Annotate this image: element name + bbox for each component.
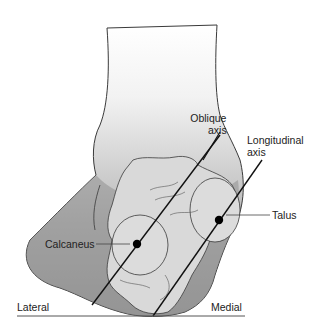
hindfoot-illustration [0,0,318,333]
oblique-axis-label-line2: axis [190,124,227,136]
talus-dot [215,216,223,224]
talus-label: Talus [272,209,297,221]
calcaneus-dot [133,240,141,248]
longitudinal-axis-label-line2: axis [247,146,304,158]
calcaneus-label: Calcaneus [45,238,95,250]
medial-label: Medial [211,301,242,313]
lateral-label: Lateral [17,301,49,313]
oblique-axis-label: Oblique axis [190,112,227,136]
longitudinal-axis-label: Longitudinal axis [247,134,304,158]
longitudinal-axis-label-line1: Longitudinal [247,134,304,146]
oblique-axis-label-line1: Oblique [190,112,227,124]
